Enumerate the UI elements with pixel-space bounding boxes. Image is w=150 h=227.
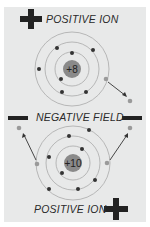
bottom-ion-label: POSITIVE ION [34, 203, 106, 215]
free-electron [104, 77, 109, 82]
plus-sign-icon [20, 9, 42, 29]
plus-sign-icon [104, 198, 128, 220]
top-atom [35, 32, 132, 106]
minus-sign-icon [122, 116, 142, 120]
negative-field-label: NEGATIVE FIELD [36, 111, 124, 123]
minus-sign-icon [8, 116, 28, 120]
free-electron [128, 99, 133, 104]
nucleus-charge-bottom: +10 [65, 158, 82, 169]
nucleus-charge-top: +8 [66, 64, 78, 75]
top-ion-label: POSITIVE ION [46, 13, 118, 25]
